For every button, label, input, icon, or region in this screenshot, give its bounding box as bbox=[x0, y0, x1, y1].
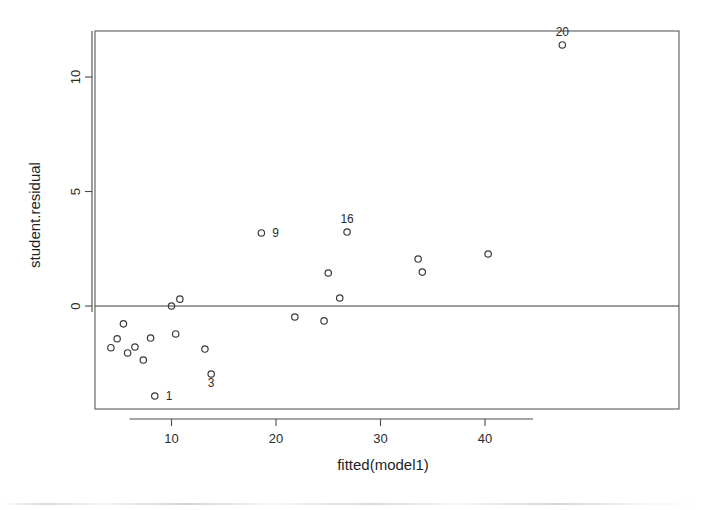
plot-canvas: 10203040 0510 1391620 fitted(model1) stu… bbox=[0, 0, 715, 510]
data-point bbox=[325, 270, 331, 276]
data-point-label: 1 bbox=[166, 389, 173, 403]
x-axis-tick-label: 40 bbox=[478, 431, 492, 446]
data-point bbox=[202, 346, 208, 352]
data-point-label: 20 bbox=[556, 25, 570, 39]
data-points-layer bbox=[108, 42, 566, 399]
data-point bbox=[292, 314, 298, 320]
data-point bbox=[152, 393, 158, 399]
data-point bbox=[120, 321, 126, 327]
data-point bbox=[172, 331, 178, 337]
data-point bbox=[114, 336, 120, 342]
data-point bbox=[108, 344, 114, 350]
data-point bbox=[485, 251, 491, 257]
data-point-label: 16 bbox=[340, 212, 354, 226]
data-point bbox=[419, 269, 425, 275]
data-point bbox=[415, 256, 421, 262]
x-axis-tick-label: 20 bbox=[269, 431, 283, 446]
data-point bbox=[140, 357, 146, 363]
y-axis-tick-label: 10 bbox=[68, 70, 83, 84]
y-axis-tick-label: 0 bbox=[68, 302, 83, 309]
y-axis-tick-label: 5 bbox=[68, 188, 83, 195]
data-point bbox=[177, 296, 183, 302]
x-axis: 10203040 bbox=[130, 419, 534, 446]
scatter-plot-figure: 10203040 0510 1391620 fitted(model1) stu… bbox=[0, 0, 715, 510]
x-axis-title: fitted(model1) bbox=[337, 456, 429, 473]
data-point bbox=[559, 42, 565, 48]
data-point bbox=[132, 344, 138, 350]
point-labels-layer: 1391620 bbox=[166, 25, 570, 403]
y-axis: 0510 bbox=[68, 31, 92, 312]
data-point bbox=[337, 295, 343, 301]
data-point-label: 3 bbox=[208, 376, 215, 390]
x-axis-tick-label: 10 bbox=[164, 431, 178, 446]
plot-box-border bbox=[95, 31, 679, 409]
plot-frame bbox=[95, 31, 679, 409]
data-point bbox=[147, 335, 153, 341]
y-axis-title: student.residual bbox=[26, 162, 43, 268]
data-point bbox=[258, 230, 264, 236]
x-axis-tick-label: 30 bbox=[373, 431, 387, 446]
data-point-label: 9 bbox=[272, 226, 279, 240]
data-point bbox=[344, 229, 350, 235]
data-point bbox=[124, 350, 130, 356]
data-point bbox=[321, 318, 327, 324]
